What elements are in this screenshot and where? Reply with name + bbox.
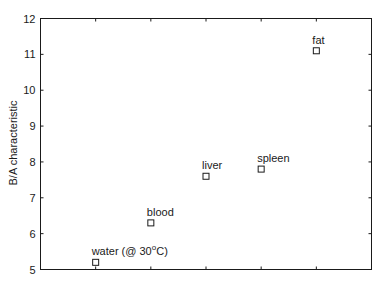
y-tick-label: 8 (29, 156, 35, 168)
y-tick-label: 11 (24, 48, 35, 60)
y-tick-label: 12 (23, 13, 35, 25)
plot-frame (41, 19, 372, 270)
x-axis-ticks (96, 19, 317, 270)
point-label: spleen (257, 152, 289, 164)
y-tick-label: 7 (29, 192, 35, 204)
scatter-chart: 56789101112 water (@ 30oC)bloodliversple… (0, 0, 385, 287)
point-label: liver (202, 159, 223, 171)
point-label: water (@ 30oC) (91, 243, 168, 257)
point-label: fat (312, 34, 324, 46)
square-marker-icon (203, 173, 209, 179)
y-tick-label: 5 (29, 264, 35, 276)
square-marker-icon (258, 166, 264, 172)
data-points: water (@ 30oC)bloodliverspleenfat (91, 34, 325, 266)
square-marker-icon (313, 48, 319, 54)
square-marker-icon (148, 220, 154, 226)
y-tick-label: 10 (23, 84, 35, 96)
y-axis-label: B/A characteristic (7, 100, 19, 185)
point-label: blood (147, 206, 174, 218)
y-tick-label: 6 (29, 228, 35, 240)
square-marker-icon (93, 259, 99, 265)
y-tick-label: 9 (29, 120, 35, 132)
